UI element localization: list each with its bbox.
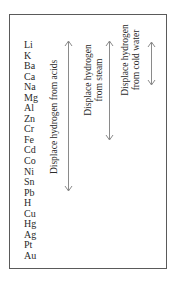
double-arrow-icon — [64, 40, 73, 192]
double-arrow-icon — [105, 40, 114, 141]
element-item: Li — [24, 40, 38, 51]
label-steam: Displace hydrogen from steam — [83, 44, 104, 116]
element-list: Li K Ba Ca Na Mg Al Zn Cr Fe Cd Co Ni Sn… — [24, 40, 38, 261]
element-item: Au — [24, 251, 38, 262]
label-acids: Displace hydrogen from acids — [49, 60, 60, 174]
double-arrow-icon — [147, 41, 156, 86]
label-cold-water: Displace hydrogen from cold water — [120, 24, 141, 96]
element-item: Co — [24, 156, 38, 167]
